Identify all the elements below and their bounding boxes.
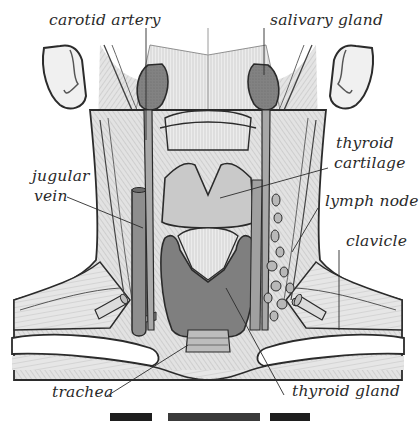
label-lymph-node: lymph node (325, 193, 419, 210)
label-clavicle: clavicle (346, 233, 407, 250)
label-thyroid-cartilage-line2: cartilage (334, 155, 406, 172)
label-carotid-artery: carotid artery (49, 12, 161, 29)
label-thyroid-gland: thyroid gland (292, 383, 400, 400)
right-ear (330, 46, 373, 109)
hyoid-region (160, 111, 256, 151)
label-salivary-gland: salivary gland (270, 12, 383, 29)
label-thyroid-cartilage-line1: thyroid (336, 135, 394, 152)
trachea (186, 330, 230, 352)
label-trachea: trachea (52, 384, 113, 401)
label-jugular-vein-line2: vein (34, 188, 68, 205)
truncated-caption (110, 412, 310, 421)
label-jugular-vein-line1: jugular (32, 168, 90, 185)
left-ear (43, 46, 86, 109)
